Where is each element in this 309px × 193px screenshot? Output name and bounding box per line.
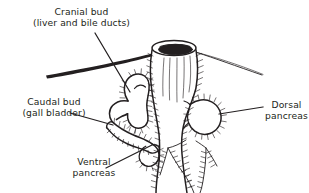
tube-inner-shading [163, 56, 191, 102]
duodenum-tube [147, 40, 203, 193]
dorsal-pancreas-texture [184, 94, 227, 140]
label-cranial-bud: Cranial bud (liver and bile ducts) [24, 6, 139, 28]
label-cranial-bud-line2: (liver and bile ducts) [24, 17, 139, 28]
label-dorsal-pancreas-line2: pancreas [264, 110, 309, 121]
caudal-bud-shape [107, 118, 160, 154]
label-ventral-pancreas: Ventral pancreas [58, 156, 130, 178]
anatomy-figure: .ink { fill: none; stroke: #231f20; stro… [0, 0, 309, 193]
label-caudal-bud-line2: (gall bladder) [4, 107, 104, 118]
label-cranial-bud-line1: Cranial bud [24, 6, 139, 17]
label-ventral-pancreas-line1: Ventral [58, 156, 130, 167]
label-ventral-pancreas-line2: pancreas [58, 167, 130, 178]
label-dorsal-pancreas: Dorsal pancreas [264, 99, 309, 121]
leader-dorsal-pancreas [219, 107, 263, 114]
dorsal-pancreas-shape [184, 94, 227, 140]
label-caudal-bud: Caudal bud (gall bladder) [4, 96, 104, 118]
mesentery-band [46, 53, 263, 79]
cranial-bud-shape [109, 69, 154, 133]
label-dorsal-pancreas-line1: Dorsal [264, 99, 309, 110]
label-caudal-bud-line1: Caudal bud [4, 96, 104, 107]
